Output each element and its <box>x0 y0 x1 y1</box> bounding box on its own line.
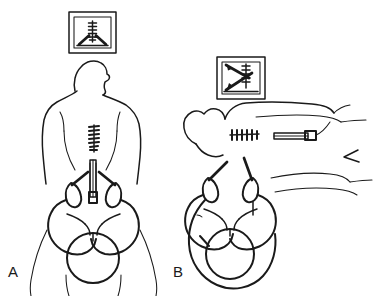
medical-illustration-svg: A <box>0 0 375 296</box>
figure-background <box>0 0 375 296</box>
panel-label-b: B <box>173 263 183 280</box>
panel-label-a: A <box>8 263 18 280</box>
spinal-needle-midline <box>89 160 97 203</box>
figure-container: A <box>0 0 375 296</box>
